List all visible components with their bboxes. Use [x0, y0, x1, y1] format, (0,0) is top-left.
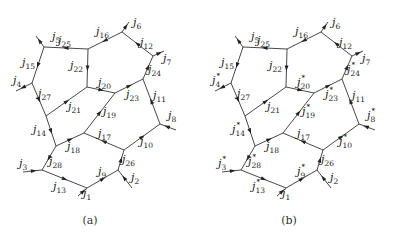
label-j22: j22 [67, 59, 83, 74]
label-j12: j12 [336, 36, 352, 51]
label-j3: j3 [16, 157, 27, 172]
label-j7: j7 [160, 52, 171, 67]
label-j14: j14 [30, 123, 46, 138]
star-mark: * [223, 155, 227, 163]
star-mark: * [302, 163, 306, 171]
star-mark: * [352, 61, 356, 69]
label-j24: j24 [145, 63, 161, 78]
label-j21: j21 [264, 100, 280, 115]
label-j27: j27 [35, 87, 51, 102]
label-j6: j6 [130, 16, 141, 31]
arrow-icon [355, 52, 361, 56]
label-j25: j25 [55, 34, 71, 49]
label-j11: j11 [349, 89, 365, 104]
label-j12: j12 [137, 36, 153, 51]
arrow-icon [38, 38, 43, 44]
arrow-icon [123, 24, 128, 30]
arrow-icon [260, 176, 266, 180]
star-mark: * [217, 72, 221, 80]
star-mark: * [302, 74, 306, 82]
label-j25: j25 [254, 34, 270, 49]
label-j2: j2 [327, 171, 338, 186]
label-j15: j15 [19, 56, 35, 71]
label-j28: j28 [46, 155, 62, 170]
arrow-icon [285, 65, 289, 71]
arrow-icon [322, 24, 327, 30]
label-j22: j22 [266, 59, 282, 74]
arrow-icon [164, 126, 170, 130]
star-mark: * [372, 107, 376, 115]
label-j8: j8 [165, 109, 176, 124]
label-j21: j21 [65, 100, 81, 115]
arrow-icon [230, 169, 236, 173]
arrow-icon [219, 85, 225, 89]
label-j17: j17 [294, 127, 310, 142]
star-mark: * [330, 86, 334, 94]
label-j20: j20 [95, 76, 111, 91]
caption-b: (b) [281, 214, 297, 227]
label-j2: j2 [128, 171, 139, 186]
label-j27: j27 [234, 87, 250, 102]
label-j9: j9 [95, 165, 106, 180]
label-j13: j13 [50, 180, 66, 195]
arrow-icon [48, 128, 52, 134]
panel-a-graph: j5j25j16j6j12j7j24j22j15j4j27j20j23j11j2… [10, 16, 176, 202]
label-j18: j18 [263, 140, 279, 155]
panel-b-graph: j5j25j16j6j12j7j24*j22j15j4*j27j20*j23*j… [209, 16, 376, 202]
arrow-icon [37, 62, 41, 68]
caption-a: (a) [82, 214, 97, 227]
label-j1: j1 [279, 187, 290, 202]
label-j26: j26 [119, 153, 135, 168]
label-j15: j15 [218, 56, 234, 71]
star-mark: * [344, 133, 348, 141]
label-j10: j10 [137, 135, 153, 150]
arrow-icon [156, 52, 162, 56]
arrow-icon [236, 62, 240, 68]
label-j4: j4 [10, 74, 21, 89]
label-j7: j7 [359, 52, 370, 67]
star-mark: * [237, 121, 241, 129]
label-j16: j16 [292, 25, 308, 40]
arrow-icon [247, 128, 251, 134]
star-mark: * [253, 153, 257, 161]
diagram-canvas: j5j25j16j6j12j7j24j22j15j4j27j20j23j11j2… [0, 0, 400, 235]
arrow-icon [31, 169, 37, 173]
arrow-icon [237, 38, 242, 44]
label-j17: j17 [95, 127, 111, 142]
label-j11: j11 [150, 89, 166, 104]
arrow-icon [86, 65, 90, 71]
label-j26: j26 [318, 153, 334, 168]
label-j23: j23 [123, 88, 139, 103]
star-mark: * [307, 103, 311, 111]
star-mark: * [257, 178, 261, 186]
label-j19: j19 [100, 105, 116, 120]
label-j1: j1 [80, 187, 91, 202]
arrow-icon [20, 85, 26, 89]
label-j18: j18 [64, 140, 80, 155]
label-j16: j16 [93, 25, 109, 40]
label-j6: j6 [329, 16, 340, 31]
arrow-icon [61, 176, 67, 180]
arrow-icon [363, 126, 369, 130]
